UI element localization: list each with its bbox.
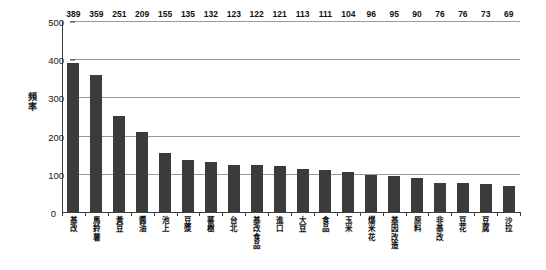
x-tick-label[interactable]: 醬油	[138, 217, 147, 234]
bar-slot: 76	[429, 21, 452, 212]
bar-value-label: 76	[458, 9, 467, 19]
x-tick-label[interactable]: 基因改造	[390, 217, 399, 251]
x-label-slot: 豆腐	[474, 217, 497, 234]
x-label-slot: 馬鈴薯	[85, 217, 108, 242]
bar[interactable]: 132	[205, 162, 217, 212]
x-label-slot: 基改食品	[245, 217, 268, 251]
x-tick-mark	[199, 212, 200, 216]
bar-value-label: 104	[341, 9, 355, 19]
plot-area: 0100200300400500 38935925120915513513212…	[62, 21, 520, 212]
x-tick-label[interactable]: 沙拉	[504, 217, 513, 234]
x-tick-mark	[520, 212, 521, 216]
x-tick-mark	[314, 212, 315, 216]
x-tick-mark	[497, 212, 498, 216]
x-label-slot: 基因改造	[383, 217, 406, 251]
bar-value-label: 90	[412, 9, 421, 19]
bar-value-label: 251	[112, 9, 126, 19]
x-tick-mark	[108, 212, 109, 216]
bar[interactable]: 359	[90, 75, 102, 212]
x-tick-mark	[474, 212, 475, 216]
x-label-slot: 基改	[62, 217, 85, 234]
x-tick-label[interactable]: 玉米	[344, 217, 353, 234]
bar[interactable]: 76	[434, 183, 446, 212]
x-axis-labels: 基改馬鈴薯黃豆醬油池上豆漿蕃樹台北基改食品進口大豆食品玉米爆米花基因改造原料非基…	[62, 217, 520, 251]
x-label-slot: 進口	[268, 217, 291, 234]
bar-chart: 頻率 0100200300400500 38935925120915513513…	[0, 0, 546, 270]
x-tick-label[interactable]: 馬鈴薯	[92, 217, 101, 242]
bar[interactable]: 95	[388, 176, 400, 212]
x-tick-label[interactable]: 池上	[161, 217, 170, 234]
x-label-slot: 沙拉	[497, 217, 520, 234]
bar[interactable]: 123	[228, 165, 240, 212]
x-tick-label[interactable]: 蕃樹	[206, 217, 215, 234]
bar-slot: 132	[199, 21, 222, 212]
bar[interactable]: 76	[457, 183, 469, 212]
bar-slot: 69	[497, 21, 520, 212]
x-tick-label[interactable]: 台北	[229, 217, 238, 234]
bar-value-label: 76	[435, 9, 444, 19]
x-tick-label[interactable]: 原料	[413, 217, 422, 234]
x-tick-label[interactable]: 進口	[275, 217, 284, 234]
bar-slot: 104	[337, 21, 360, 212]
x-tick-label[interactable]: 非基改	[435, 217, 444, 242]
x-label-slot: 豆花	[451, 217, 474, 234]
bars-container: 3893592512091551351321231221211131111049…	[62, 21, 520, 212]
bar[interactable]: 122	[251, 165, 263, 212]
bar-slot: 111	[314, 21, 337, 212]
bar-value-label: 359	[89, 9, 103, 19]
bar[interactable]: 104	[342, 172, 354, 212]
bar-slot: 96	[360, 21, 383, 212]
x-label-slot: 非基改	[429, 217, 452, 242]
x-tick-label[interactable]: 大豆	[298, 217, 307, 234]
bar-slot: 113	[291, 21, 314, 212]
bar-value-label: 132	[204, 9, 218, 19]
bar[interactable]: 135	[182, 160, 194, 212]
x-label-slot: 大豆	[291, 217, 314, 234]
bar[interactable]: 69	[503, 186, 515, 212]
bar-slot: 95	[383, 21, 406, 212]
x-tick-mark	[428, 212, 429, 216]
x-label-slot: 原料	[406, 217, 429, 234]
bar[interactable]: 90	[411, 178, 423, 212]
x-tick-label[interactable]: 基改	[69, 217, 78, 234]
x-tick-label[interactable]: 黃豆	[115, 217, 124, 234]
bar-value-label: 121	[273, 9, 287, 19]
x-tick-label[interactable]: 基改食品	[252, 217, 261, 251]
x-tick-mark	[245, 212, 246, 216]
bar[interactable]: 73	[480, 184, 492, 212]
x-label-slot: 豆漿	[177, 217, 200, 234]
x-tick-mark	[383, 212, 384, 216]
bar-slot: 123	[222, 21, 245, 212]
x-tick-label[interactable]: 爆米花	[367, 217, 376, 242]
bar-slot: 73	[474, 21, 497, 212]
x-label-slot: 醬油	[131, 217, 154, 234]
x-tick-mark	[337, 212, 338, 216]
y-axis-title-char: 率	[24, 102, 40, 112]
x-tick-mark	[222, 212, 223, 216]
bar[interactable]: 155	[159, 153, 171, 212]
bar-value-label: 389	[66, 9, 80, 19]
bar[interactable]: 121	[274, 166, 286, 212]
x-tick-label[interactable]: 豆腐	[481, 217, 490, 234]
x-tick-label[interactable]: 豆花	[458, 217, 467, 234]
bar-slot: 155	[154, 21, 177, 212]
x-tick-row	[62, 212, 520, 216]
bar-slot: 121	[268, 21, 291, 212]
x-label-slot: 黃豆	[108, 217, 131, 234]
x-label-slot: 池上	[154, 217, 177, 234]
x-label-slot: 食品	[314, 217, 337, 234]
bar[interactable]: 96	[365, 175, 377, 212]
bar-slot: 209	[131, 21, 154, 212]
bar[interactable]: 209	[136, 132, 148, 212]
x-tick-mark	[131, 212, 132, 216]
x-tick-label[interactable]: 食品	[321, 217, 330, 234]
bar-value-label: 96	[367, 9, 376, 19]
bar[interactable]: 389	[67, 63, 79, 212]
bar-value-label: 123	[227, 9, 241, 19]
bar[interactable]: 251	[113, 116, 125, 212]
x-tick-label[interactable]: 豆漿	[183, 217, 192, 234]
y-axis-title-char: 頻	[24, 92, 40, 102]
bar[interactable]: 113	[297, 169, 309, 212]
bar-slot: 76	[451, 21, 474, 212]
bar[interactable]: 111	[319, 170, 331, 212]
